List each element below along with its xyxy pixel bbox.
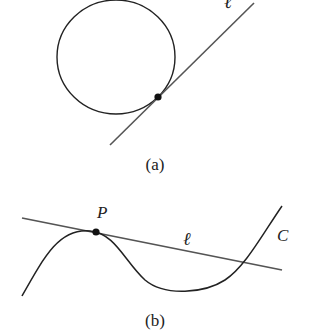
caption-b: (b) — [145, 311, 165, 330]
figure-b: P ℓ C (b) — [22, 203, 289, 330]
curve-label-c: C — [277, 226, 289, 245]
line-label-b: ℓ — [183, 229, 191, 249]
figure-a: ℓ (a) — [57, 0, 254, 174]
tangent-point-a — [154, 93, 161, 100]
tangent-diagram: ℓ (a) P ℓ C (b) — [0, 0, 314, 331]
tangent-line-a — [110, 3, 254, 145]
caption-a: (a) — [146, 155, 165, 174]
point-label-p: P — [96, 203, 107, 222]
curve-c — [22, 206, 282, 296]
point-p — [92, 228, 99, 235]
line-label-a: ℓ — [224, 0, 232, 12]
